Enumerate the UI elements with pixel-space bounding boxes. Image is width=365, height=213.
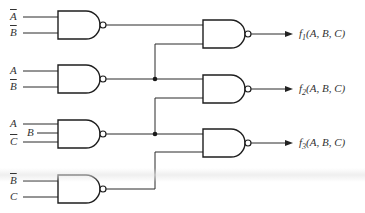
- input-label-b-bar: B: [10, 175, 17, 186]
- arrow-head-icon: [285, 86, 293, 92]
- input-label-a: A: [10, 65, 17, 76]
- input-label-a: A: [10, 118, 17, 129]
- output-nand-gate-2: [203, 75, 251, 103]
- arrow-head-icon: [285, 140, 293, 146]
- junction-dot: [153, 132, 158, 137]
- arrow-head-icon: [285, 31, 293, 37]
- input-label-b-bar: B: [10, 27, 17, 38]
- output-nand-gate-1: [203, 20, 251, 48]
- output-label-f3: f3(A, B, C): [299, 137, 345, 151]
- input-label-a-bar: A: [10, 11, 17, 22]
- output-label-f1: f1(A, B, C): [299, 28, 345, 42]
- input-label-c: C: [10, 191, 17, 202]
- output-nand-gate-3: [203, 129, 251, 157]
- input-label-c-bar: C: [10, 136, 17, 147]
- junction-dot: [153, 77, 158, 82]
- nand-gate-1: [58, 11, 106, 39]
- nand-gate-2: [58, 65, 106, 93]
- input-label-b: B: [27, 127, 34, 138]
- input-wires: [23, 17, 58, 197]
- input-label-b-bar: B: [10, 81, 17, 92]
- nand-gate-3: [58, 120, 106, 148]
- nand-gate-4: [58, 175, 106, 203]
- output-arrows: [251, 31, 293, 146]
- interconnect-wires: [106, 25, 203, 189]
- output-label-f2: f2(A, B, C): [299, 83, 345, 97]
